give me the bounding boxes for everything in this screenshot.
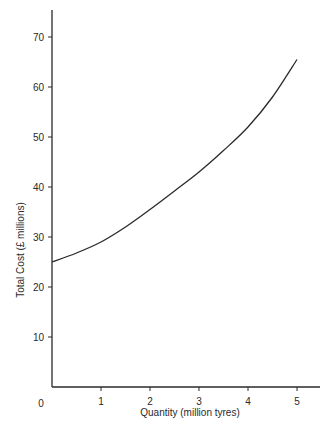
y-tick-label: 60 (33, 82, 45, 93)
x-tick-label: 1 (98, 396, 104, 407)
x-axis-title: Quantity (million tyres) (140, 407, 239, 418)
y-tick-label: 50 (33, 132, 45, 143)
ticks: 1020304050607012345 (33, 32, 300, 408)
origin-label: 0 (38, 398, 44, 409)
x-tick-label: 4 (245, 396, 251, 407)
y-tick-label: 70 (33, 32, 45, 43)
x-tick-label: 3 (196, 396, 202, 407)
x-tick-label: 2 (147, 396, 153, 407)
axes (52, 10, 320, 387)
total-cost-curve (52, 60, 297, 263)
y-tick-label: 10 (33, 332, 45, 343)
total-cost-chart: 1020304050607012345 Total Cost (£ millio… (0, 0, 335, 433)
x-tick-label: 5 (294, 396, 300, 407)
y-tick-label: 20 (33, 282, 45, 293)
y-axis-title: Total Cost (£ millions) (15, 202, 26, 298)
y-tick-label: 40 (33, 182, 45, 193)
y-tick-label: 30 (33, 232, 45, 243)
